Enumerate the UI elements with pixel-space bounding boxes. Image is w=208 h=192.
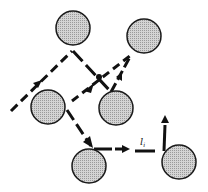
particle-left-middle: [31, 90, 65, 124]
particle-bottom-right: [162, 145, 196, 179]
particle-top-right: [127, 19, 161, 53]
arrow-head-icon: [122, 145, 130, 153]
particle-path-diagram: li: [0, 0, 208, 192]
crossing-point: [96, 74, 102, 80]
particle-bottom-center: [72, 149, 106, 183]
segment-length-label: li: [140, 136, 145, 148]
particle-top-center: [56, 11, 90, 45]
arrow-up-icon: [161, 115, 169, 123]
path-f-up: [164, 125, 165, 151]
arrow-head-icon: [83, 136, 93, 148]
label-subscript: i: [143, 141, 145, 148]
particle-center-right: [99, 91, 133, 125]
